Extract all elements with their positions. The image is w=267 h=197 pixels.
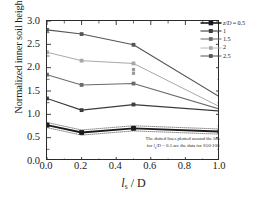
y-tick-label: 0.5	[0, 132, 40, 143]
legend-label-3: 2	[222, 44, 226, 51]
legend-label-0: z/D = 0.5	[222, 20, 245, 27]
legend-swatch-icon	[200, 52, 222, 60]
plot-annotation: The dotted lines plotted around the line…	[131, 136, 235, 150]
legend-label-1: 1	[222, 28, 226, 35]
legend-swatch-icon	[200, 19, 222, 27]
legend-item-0[interactable]: z/D = 0.5	[200, 19, 245, 27]
y-tick-label: 1.5	[0, 86, 40, 97]
x-tick-label: 1.0	[199, 161, 239, 172]
annotation-line-1: The dotted lines plotted around the line	[146, 136, 221, 141]
legend: z/D = 0.5 1 1.5 2	[200, 19, 245, 60]
legend-swatch-icon	[200, 44, 222, 52]
legend-item-3[interactable]: 2	[200, 44, 245, 52]
chart-figure: Normalized inner soil height, h/D 3.0 2.…	[0, 0, 267, 197]
y-tick-label: 2.5	[0, 39, 40, 50]
legend-item-1[interactable]: 1	[200, 27, 245, 35]
annotation-line-2-suffix: /D = 0.5 are the data for S50-100	[156, 143, 219, 148]
y-tick-label: 3.0	[0, 16, 40, 27]
y-tick-label: 2.0	[0, 62, 40, 73]
x-axis-label-suffix: / D	[128, 176, 146, 190]
y-tick-label: 1.0	[0, 109, 40, 120]
legend-item-2[interactable]: 1.5	[200, 35, 245, 43]
legend-swatch-icon	[200, 27, 222, 35]
legend-label-2: 1.5	[222, 36, 230, 43]
x-axis-label: ls / D	[0, 176, 267, 191]
legend-label-4: 2.5	[222, 53, 230, 60]
legend-swatch-icon	[200, 35, 222, 43]
legend-item-4[interactable]: 2.5	[200, 52, 245, 60]
